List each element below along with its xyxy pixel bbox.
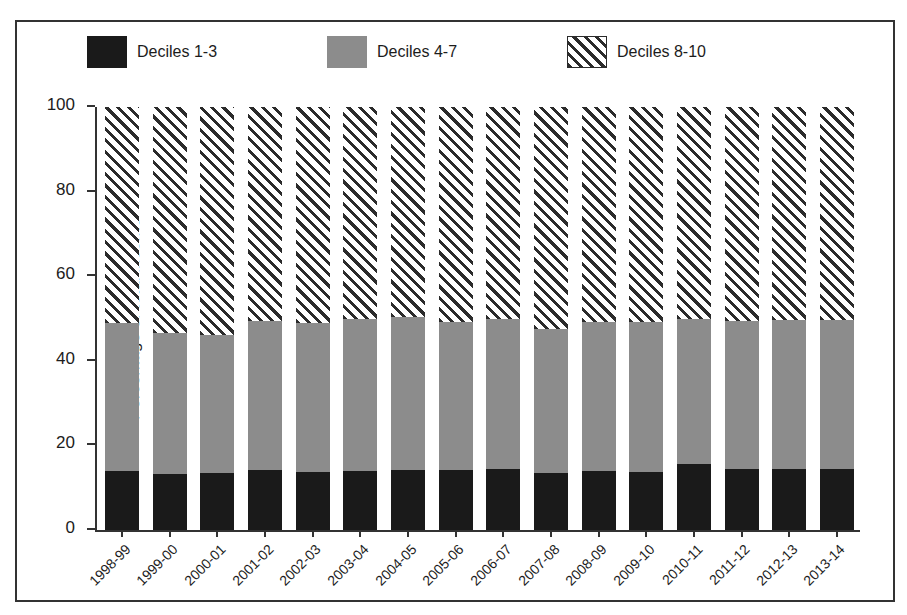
bar-segment-deciles-4-7-2007-08[interactable] bbox=[534, 329, 568, 473]
bar-segment-deciles-1-3-2009-10[interactable] bbox=[629, 472, 663, 530]
bar-segment-deciles-4-7-1998-99[interactable] bbox=[105, 323, 139, 471]
x-tick-label-2006-07: 2006-07 bbox=[467, 541, 515, 589]
bar-segment-deciles-1-3-2013-14[interactable] bbox=[820, 469, 854, 530]
y-tick-60: 60 bbox=[87, 274, 95, 276]
bar-segment-deciles-1-3-1999-00[interactable] bbox=[153, 474, 187, 530]
bar-segment-deciles-1-3-2006-07[interactable] bbox=[486, 469, 520, 530]
bar-segment-deciles-8-10-2002-03[interactable] bbox=[296, 107, 330, 323]
bar-segment-deciles-1-3-2012-13[interactable] bbox=[772, 469, 806, 530]
x-axis-line bbox=[95, 530, 860, 532]
bar-segment-deciles-1-3-2011-12[interactable] bbox=[725, 469, 759, 530]
bar-2002-03[interactable]: 2002-03 bbox=[296, 107, 330, 530]
x-tick-2006-07 bbox=[502, 530, 504, 537]
bar-segment-deciles-8-10-2008-09[interactable] bbox=[582, 107, 616, 322]
x-tick-label-2013-14: 2013-14 bbox=[801, 541, 849, 589]
bar-segment-deciles-4-7-2006-07[interactable] bbox=[486, 319, 520, 469]
y-tick-label-60: 60 bbox=[56, 264, 75, 284]
bar-segment-deciles-8-10-1999-00[interactable] bbox=[153, 107, 187, 333]
x-tick-label-2002-03: 2002-03 bbox=[276, 541, 324, 589]
bar-segment-deciles-1-3-2004-05[interactable] bbox=[391, 470, 425, 530]
x-tick-1999-00 bbox=[169, 530, 171, 537]
bar-segment-deciles-8-10-2006-07[interactable] bbox=[486, 107, 520, 319]
y-axis-line bbox=[95, 107, 97, 530]
x-tick-2013-14 bbox=[836, 530, 838, 537]
bar-segment-deciles-1-3-2005-06[interactable] bbox=[439, 470, 473, 530]
bar-segment-deciles-8-10-2001-02[interactable] bbox=[248, 107, 282, 321]
bar-2006-07[interactable]: 2006-07 bbox=[486, 107, 520, 530]
bar-segment-deciles-4-7-2000-01[interactable] bbox=[200, 335, 234, 473]
bar-segment-deciles-1-3-2003-04[interactable] bbox=[343, 471, 377, 530]
bar-segment-deciles-1-3-1998-99[interactable] bbox=[105, 471, 139, 530]
x-tick-label-2010-11: 2010-11 bbox=[658, 541, 705, 588]
bar-2010-11[interactable]: 2010-11 bbox=[677, 107, 711, 530]
bar-segment-deciles-8-10-2013-14[interactable] bbox=[820, 107, 854, 320]
bar-segment-deciles-1-3-2008-09[interactable] bbox=[582, 471, 616, 530]
bar-segment-deciles-8-10-1998-99[interactable] bbox=[105, 107, 139, 323]
y-tick-label-100: 100 bbox=[47, 95, 75, 115]
bar-segment-deciles-8-10-2010-11[interactable] bbox=[677, 107, 711, 319]
bar-1999-00[interactable]: 1999-00 bbox=[153, 107, 187, 530]
bar-segment-deciles-4-7-2008-09[interactable] bbox=[582, 322, 616, 471]
x-tick-2010-11 bbox=[693, 530, 695, 537]
bar-segment-deciles-1-3-2002-03[interactable] bbox=[296, 472, 330, 530]
bar-segment-deciles-4-7-2002-03[interactable] bbox=[296, 323, 330, 472]
bar-segment-deciles-4-7-2011-12[interactable] bbox=[725, 321, 759, 469]
legend-entry-deciles-1-3: Deciles 1-3 bbox=[87, 36, 217, 68]
bar-segment-deciles-8-10-2005-06[interactable] bbox=[439, 107, 473, 322]
bar-segment-deciles-8-10-2007-08[interactable] bbox=[534, 107, 568, 329]
legend-entry-deciles-8-10: Deciles 8-10 bbox=[567, 36, 706, 68]
bar-2007-08[interactable]: 2007-08 bbox=[534, 107, 568, 530]
bar-2004-05[interactable]: 2004-05 bbox=[391, 107, 425, 530]
bar-2001-02[interactable]: 2001-02 bbox=[248, 107, 282, 530]
bar-2005-06[interactable]: 2005-06 bbox=[439, 107, 473, 530]
bar-2003-04[interactable]: 2003-04 bbox=[343, 107, 377, 530]
bar-segment-deciles-8-10-2009-10[interactable] bbox=[629, 107, 663, 322]
bar-segment-deciles-4-7-2009-10[interactable] bbox=[629, 322, 663, 472]
y-tick-label-20: 20 bbox=[56, 433, 75, 453]
bar-segment-deciles-1-3-2001-02[interactable] bbox=[248, 470, 282, 530]
legend-swatch-deciles-4-7 bbox=[327, 36, 367, 68]
bar-segment-deciles-4-7-2010-11[interactable] bbox=[677, 319, 711, 464]
bar-series-group: 1998-991999-002000-012001-022002-032003-… bbox=[105, 107, 854, 530]
bar-2008-09[interactable]: 2008-09 bbox=[582, 107, 616, 530]
bar-segment-deciles-4-7-1999-00[interactable] bbox=[153, 333, 187, 473]
bar-segment-deciles-8-10-2011-12[interactable] bbox=[725, 107, 759, 321]
x-tick-2008-09 bbox=[598, 530, 600, 537]
y-tick-80: 80 bbox=[87, 190, 95, 192]
bar-segment-deciles-1-3-2007-08[interactable] bbox=[534, 473, 568, 530]
x-tick-2009-10 bbox=[645, 530, 647, 537]
bar-segment-deciles-8-10-2003-04[interactable] bbox=[343, 107, 377, 319]
x-tick-1998-99 bbox=[121, 530, 123, 537]
y-tick-label-0: 0 bbox=[66, 518, 75, 538]
bar-2000-01[interactable]: 2000-01 bbox=[200, 107, 234, 530]
bar-segment-deciles-8-10-2004-05[interactable] bbox=[391, 107, 425, 317]
y-tick-label-80: 80 bbox=[56, 180, 75, 200]
bar-segment-deciles-4-7-2005-06[interactable] bbox=[439, 322, 473, 470]
bar-segment-deciles-4-7-2004-05[interactable] bbox=[391, 317, 425, 470]
bar-segment-deciles-4-7-2003-04[interactable] bbox=[343, 319, 377, 471]
legend-label-deciles-8-10: Deciles 8-10 bbox=[617, 43, 706, 61]
x-tick-label-2005-06: 2005-06 bbox=[419, 541, 467, 589]
x-tick-2011-12 bbox=[741, 530, 743, 537]
x-tick-2000-01 bbox=[216, 530, 218, 537]
bar-1998-99[interactable]: 1998-99 bbox=[105, 107, 139, 530]
chart-figure: Deciles 1-3 Deciles 4-7 Deciles 8-10 Per… bbox=[15, 20, 895, 602]
bar-segment-deciles-4-7-2013-14[interactable] bbox=[820, 320, 854, 469]
bar-segment-deciles-1-3-2010-11[interactable] bbox=[677, 464, 711, 530]
legend-entry-deciles-4-7: Deciles 4-7 bbox=[327, 36, 457, 68]
bar-segment-deciles-4-7-2012-13[interactable] bbox=[772, 320, 806, 469]
bar-2011-12[interactable]: 2011-12 bbox=[725, 107, 759, 530]
plot-area: Percentage of total income 020406080100 … bbox=[95, 107, 860, 530]
bar-segment-deciles-1-3-2000-01[interactable] bbox=[200, 473, 234, 530]
bar-segment-deciles-8-10-2012-13[interactable] bbox=[772, 107, 806, 320]
bar-segment-deciles-8-10-2000-01[interactable] bbox=[200, 107, 234, 335]
bar-2013-14[interactable]: 2013-14 bbox=[820, 107, 854, 530]
y-tick-20: 20 bbox=[87, 443, 95, 445]
legend-swatch-deciles-1-3 bbox=[87, 36, 127, 68]
x-tick-2005-06 bbox=[455, 530, 457, 537]
y-tick-100: 100 bbox=[87, 105, 95, 107]
bar-2009-10[interactable]: 2009-10 bbox=[629, 107, 663, 530]
bar-2012-13[interactable]: 2012-13 bbox=[772, 107, 806, 530]
bar-segment-deciles-4-7-2001-02[interactable] bbox=[248, 321, 282, 471]
x-tick-2007-08 bbox=[550, 530, 552, 537]
